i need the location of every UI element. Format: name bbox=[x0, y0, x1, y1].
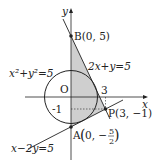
point-B bbox=[69, 34, 73, 38]
point-B-label: B(0, 5) bbox=[74, 30, 110, 42]
y-tick-minus1: -1 bbox=[52, 103, 62, 115]
circle-equation-label: x²+y²=5 bbox=[9, 67, 54, 79]
svg-text:0, −: 0, − bbox=[85, 129, 107, 141]
line1-equation-label: 2x+y=5 bbox=[87, 60, 131, 72]
diagram-canvas: y x O 3 -1 B(0, 5) P(3, −1) A ( 0, − 5 2… bbox=[0, 0, 160, 164]
point-A-label: A ( 0, − 5 2 ) bbox=[72, 127, 119, 146]
origin-label: O bbox=[60, 83, 69, 95]
y-axis-arrow-icon bbox=[69, 8, 73, 13]
point-P-label: P(3, −1) bbox=[108, 107, 152, 119]
y-axis-label: y bbox=[61, 5, 69, 17]
x-tick-3: 3 bbox=[101, 84, 108, 96]
line2-equation-label: x−2y=5 bbox=[11, 142, 54, 154]
point-P bbox=[104, 107, 108, 111]
shaded-region bbox=[71, 36, 106, 127]
svg-text:): ) bbox=[114, 127, 119, 143]
